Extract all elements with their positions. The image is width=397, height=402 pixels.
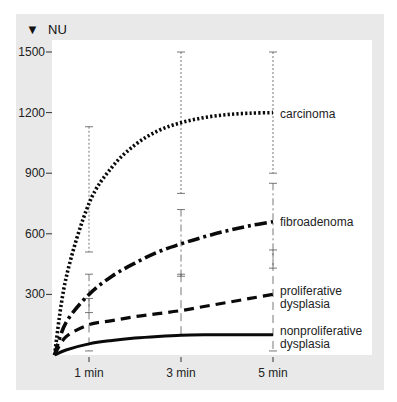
- y-tick-label: 600: [25, 227, 45, 241]
- x-tick-label: 5 min: [258, 366, 287, 380]
- x-axis: 1 min3 min5 min: [74, 357, 287, 380]
- inline-legend: carcinomafibroadenomaproliferativedyspla…: [280, 107, 362, 351]
- series-lines: [55, 113, 274, 355]
- legend-label: carcinoma: [280, 107, 336, 121]
- error-bars: [85, 52, 277, 351]
- legend-label: fibroadenoma: [280, 215, 354, 229]
- y-tick-label: 1200: [18, 106, 45, 120]
- y-axis-title: ▼ NU: [26, 22, 67, 37]
- series-line-carcinoma: [55, 113, 274, 355]
- down-triangle-icon: ▼: [26, 22, 39, 37]
- y-tick-label: 300: [25, 287, 45, 301]
- x-tick-label: 3 min: [166, 366, 195, 380]
- y-tick-label: 900: [25, 166, 45, 180]
- y-axis-label: NU: [48, 22, 67, 37]
- legend-label: dysplasia: [280, 337, 330, 351]
- legend-label: nonproliferative: [280, 324, 362, 338]
- line-chart: ▼ NU 30060090012001500 1 min3 min5 min c…: [0, 0, 397, 402]
- series-line-proliferative-dysplasia: [55, 294, 274, 355]
- legend-label: proliferative: [280, 284, 342, 298]
- legend-label: dysplasia: [280, 297, 330, 311]
- y-tick-label: 1500: [18, 45, 45, 59]
- y-axis: 30060090012001500: [18, 45, 52, 301]
- x-tick-label: 1 min: [74, 366, 103, 380]
- series-line-nonproliferative-dysplasia: [55, 335, 274, 355]
